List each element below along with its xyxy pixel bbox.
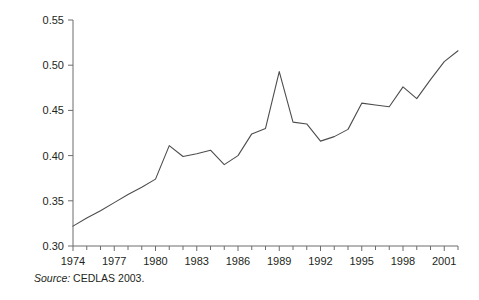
line-chart-plot: 0.550.500.450.400.350.30 197419771980198… bbox=[0, 0, 479, 300]
x-tick-label: 1983 bbox=[185, 255, 209, 267]
x-tick-label: 1980 bbox=[143, 255, 167, 267]
y-tick-label: 0.30 bbox=[43, 240, 64, 252]
source-note: Source: CEDLAS 2003. bbox=[34, 272, 144, 284]
x-tick-label: 1977 bbox=[102, 255, 126, 267]
data-series-line bbox=[73, 51, 458, 226]
x-tick-label: 1986 bbox=[226, 255, 250, 267]
x-tick-label: 1974 bbox=[61, 255, 85, 267]
y-tick-label: 0.45 bbox=[43, 104, 64, 116]
y-tick-label: 0.35 bbox=[43, 195, 64, 207]
y-tick-label: 0.40 bbox=[43, 150, 64, 162]
chart-figure: Gini coefficient 0.550.500.450.400.350.3… bbox=[0, 0, 479, 300]
source-prefix: Source: bbox=[34, 272, 70, 284]
x-tick-label: 1989 bbox=[267, 255, 291, 267]
y-tick-label: 0.50 bbox=[43, 59, 64, 71]
x-tick-label: 1992 bbox=[308, 255, 332, 267]
x-axis-ticks: 1974197719801983198619891992199519982001 bbox=[61, 246, 458, 267]
source-text: CEDLAS 2003. bbox=[73, 272, 144, 284]
x-tick-label: 1995 bbox=[350, 255, 374, 267]
x-tick-label: 2001 bbox=[432, 255, 456, 267]
x-tick-label: 1998 bbox=[391, 255, 415, 267]
y-tick-label: 0.55 bbox=[43, 14, 64, 26]
y-axis-ticks: 0.550.500.450.400.350.30 bbox=[43, 14, 73, 252]
